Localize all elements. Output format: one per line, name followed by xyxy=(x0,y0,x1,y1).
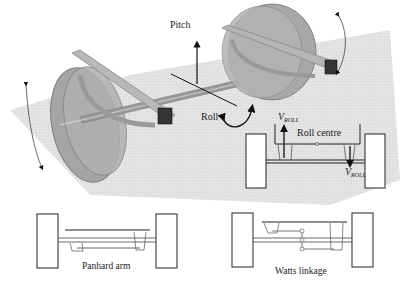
watts-linkage-view xyxy=(232,213,373,267)
suspension-diagram xyxy=(0,0,401,286)
panhard-arm-label: Panhard arm xyxy=(82,262,130,272)
pitch-label: Pitch xyxy=(170,20,191,30)
v-roll-top-label: VROLL xyxy=(278,112,299,123)
watts-linkage-label: Watts linkage xyxy=(275,267,327,277)
roll-label: Roll xyxy=(201,112,218,122)
roll-centre-point xyxy=(316,143,319,146)
v-roll-bottom-label: VROLL xyxy=(345,167,366,178)
roll-centre-label: Roll centre xyxy=(297,128,341,138)
panhard-arm-view xyxy=(37,214,177,268)
